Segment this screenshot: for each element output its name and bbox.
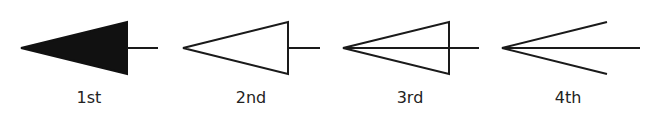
hollow-triangle-arrow-icon	[183, 22, 288, 74]
arrow-label: 3rd	[397, 88, 424, 107]
arrow-label: 1st	[77, 88, 102, 107]
filled-triangle-arrow-icon	[21, 22, 127, 74]
arrow-2nd: 2nd	[183, 22, 320, 107]
arrow-4th: 4th	[502, 22, 640, 107]
arrow-label: 4th	[555, 88, 582, 107]
arrowhead-diagram: 1st 2nd 3rd 4th	[0, 0, 656, 125]
arrow-label: 2nd	[236, 88, 266, 107]
arrow-1st: 1st	[21, 22, 158, 107]
arrow-3rd: 3rd	[343, 22, 479, 107]
